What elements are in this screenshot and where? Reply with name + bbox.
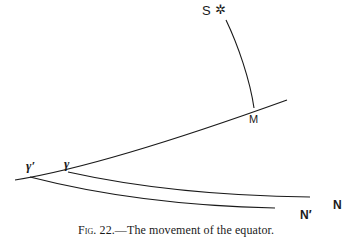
star-icon: ✲: [215, 4, 226, 16]
star-arc: [226, 20, 254, 108]
n-label: N: [333, 199, 342, 211]
equator-movement-figure: S ✲ M γ′ γ N N′ Fig. 22.—The movement of…: [0, 0, 352, 242]
gamma-label: γ: [64, 158, 69, 170]
m-label: M: [249, 113, 258, 125]
n-prime-label: N′: [300, 209, 312, 221]
figure-caption: Fig. 22.—The movement of the equator.: [0, 223, 352, 238]
gamma-prime-label: γ′: [26, 160, 35, 172]
caption-text: —The movement of the equator.: [115, 223, 274, 237]
diagram-canvas: [0, 0, 352, 242]
shifted-equator-line: [30, 177, 275, 208]
ecliptic-line: [15, 100, 287, 180]
star-label: S: [202, 5, 211, 17]
caption-prefix: Fig. 22.: [78, 223, 115, 237]
